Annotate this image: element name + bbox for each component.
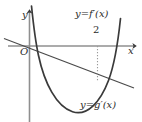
f-prime-curve [32, 6, 121, 113]
x-axis-label: x [128, 46, 134, 56]
g-prime-line-label: y=g′(x) [80, 100, 116, 110]
x-tick-label-2: 2 [93, 25, 99, 35]
f-prime-curve-label: y=f′(x) [75, 9, 108, 19]
math-figure: y x O 2 y=f′(x) y=g′(x) [0, 0, 142, 122]
origin-label: O [20, 47, 28, 57]
y-axis-label: y [22, 10, 28, 20]
